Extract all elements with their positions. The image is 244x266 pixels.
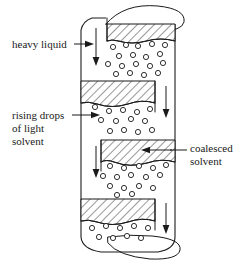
- flow-arrow-down-3: [93, 146, 100, 178]
- leader-heavy-liquid: [74, 41, 94, 47]
- label-rising-drops-line1: rising drops: [12, 109, 64, 121]
- label-heavy-liquid: heavy liquid: [12, 38, 67, 50]
- leader-rising-drops: [72, 112, 100, 118]
- flow-arrow-down-2: [163, 86, 170, 118]
- flow-arrow-down-4: [163, 203, 170, 234]
- label-coalesced-solvent-line1: coalesced: [190, 142, 233, 154]
- flow-arrow-down-1: [93, 28, 100, 66]
- extraction-column-diagram: heavy liquid rising drops of light solve…: [0, 0, 244, 266]
- top-coalesced-band: [107, 18, 175, 43]
- label-rising-drops-line3: solvent: [12, 135, 44, 147]
- column-bottom-cap: [108, 235, 180, 259]
- label-rising-drops-line2: of light: [12, 122, 44, 134]
- label-coalesced-solvent-line2: solvent: [190, 155, 222, 167]
- figure-canvas: heavy liquid rising drops of light solve…: [0, 0, 244, 266]
